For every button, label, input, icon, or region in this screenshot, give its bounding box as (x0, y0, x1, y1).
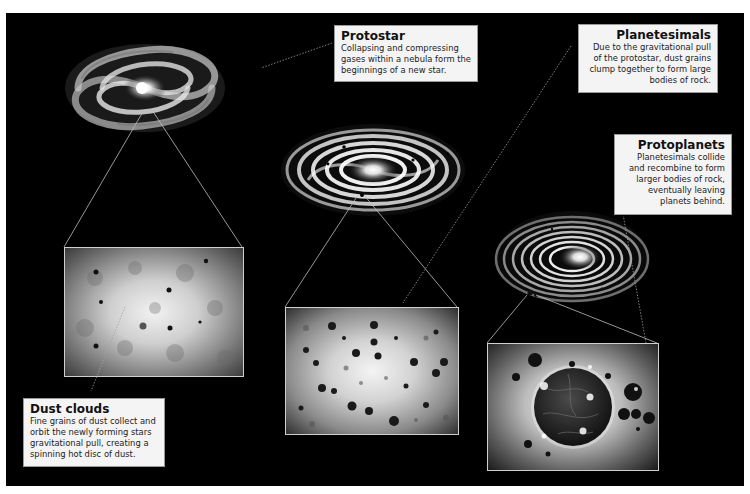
protoplanet-inset-image (487, 343, 659, 471)
protoplanets-description: Planetesimals collide and recombine to f… (621, 152, 725, 207)
protoplanets-title: Protoplanets (621, 138, 725, 152)
planetesimals-description: Due to the gravitational pull of the pro… (585, 42, 711, 86)
dust-clouds-callout: Dust clouds Fine grains of dust collect … (23, 398, 165, 467)
protostar-title: Protostar (341, 29, 471, 43)
planetesimals-callout: Planetesimals Due to the gravitational p… (578, 24, 718, 93)
dust-clouds-description: Fine grains of dust collect and orbit th… (30, 416, 158, 460)
protostar-galaxy-image (62, 38, 228, 138)
dust-clouds-title: Dust clouds (30, 402, 158, 416)
planetesimals-title: Planetesimals (585, 28, 711, 42)
protostar-description: Collapsing and compressing gases within … (341, 43, 471, 76)
protoplanets-callout: Protoplanets Planetesimals collide and r… (614, 134, 732, 215)
dust-cloud-inset-image (64, 247, 244, 377)
planetesimals-inset-image (285, 307, 459, 435)
diagram-panel: Protostar Collapsing and compressing gas… (6, 13, 744, 486)
protostar-callout: Protostar Collapsing and compressing gas… (334, 25, 478, 82)
protoplanets-galaxy-image (472, 209, 650, 307)
planetesimals-galaxy-image (278, 122, 468, 220)
